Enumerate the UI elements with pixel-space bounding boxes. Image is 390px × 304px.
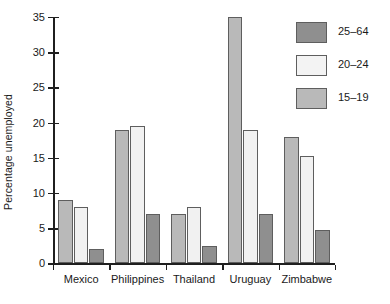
bar [58, 200, 73, 263]
x-tick-mark [166, 265, 167, 270]
bar [243, 130, 258, 264]
bar [130, 126, 145, 263]
y-tick-label: 15 [33, 152, 45, 164]
y-tick-mark-inner [55, 158, 59, 159]
y-tick-mark-inner [55, 52, 59, 53]
x-tick-mark [335, 265, 336, 270]
y-tick-mark [48, 52, 53, 53]
bar [228, 17, 243, 263]
y-tick-mark [48, 87, 53, 88]
legend-swatch [296, 22, 327, 43]
y-tick-mark [48, 123, 53, 124]
y-tick-label: 20 [33, 117, 45, 129]
bar [74, 207, 89, 263]
plot-area: 05101520253035 MexicoPhilippinesThailand… [53, 17, 335, 265]
y-tick-label: 30 [33, 46, 45, 58]
y-tick-label: 5 [39, 222, 45, 234]
y-tick-mark [48, 17, 53, 18]
x-tick-mark [222, 265, 223, 270]
y-tick-mark-inner [55, 17, 59, 18]
x-axis-line [53, 263, 335, 265]
x-tick-mark [109, 265, 110, 270]
y-tick-mark-inner [55, 123, 59, 124]
bar [202, 246, 217, 264]
y-tick-label: 35 [33, 11, 45, 23]
bar [315, 230, 330, 263]
legend-label: 15–19 [338, 91, 369, 103]
bar [300, 156, 315, 264]
y-tick-mark-inner [55, 193, 59, 194]
chart-legend: 25–6420–2415–19 [296, 22, 390, 121]
x-tick-label: Thailand [173, 273, 215, 285]
chart-figure: Percentage unemployed 05101520253035 Mex… [0, 0, 390, 304]
y-tick-mark [48, 158, 53, 159]
x-tick-label: Uruguay [230, 273, 272, 285]
x-tick-label: Mexico [64, 273, 99, 285]
legend-swatch [296, 55, 327, 76]
legend-swatch [296, 88, 327, 109]
x-tick-mark [279, 265, 280, 270]
y-tick-label: 0 [39, 257, 45, 269]
y-tick-mark-inner [55, 87, 59, 88]
y-tick-label: 25 [33, 81, 45, 93]
x-tick-mark [53, 265, 54, 270]
legend-item: 20–24 [296, 55, 390, 81]
legend-label: 25–64 [338, 25, 369, 37]
bar [146, 214, 161, 263]
y-axis-title: Percentage unemployed [0, 0, 16, 304]
x-tick-label: Zimbabwe [281, 273, 332, 285]
y-tick-mark [48, 228, 53, 229]
legend-item: 15–19 [296, 88, 390, 114]
bar [89, 249, 104, 263]
y-tick-label: 10 [33, 187, 45, 199]
legend-item: 25–64 [296, 22, 390, 48]
bar [171, 214, 186, 263]
legend-label: 20–24 [338, 58, 369, 70]
y-tick-mark-inner [55, 263, 59, 264]
bar [187, 207, 202, 263]
bar [284, 137, 299, 264]
bar [259, 214, 274, 263]
bar [115, 130, 130, 264]
y-tick-mark [48, 193, 53, 194]
x-tick-label: Philippines [111, 273, 164, 285]
